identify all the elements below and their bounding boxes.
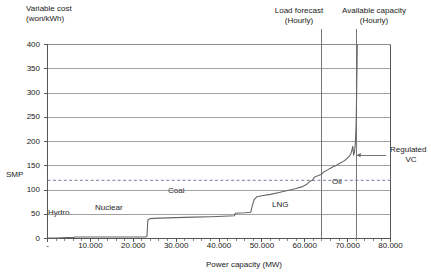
x-tick-label-80000: 80.000 [368,241,414,251]
y-tick-label-100: 100 [12,185,40,195]
x-tick-label-0: - [25,241,71,251]
regulated-vc-leader-arrow [357,153,361,157]
x-tick-label-30000: 30.000 [153,241,199,251]
y-tick-label-350: 350 [12,64,40,74]
x-tick-label-40000: 40.000 [196,241,242,251]
plot-area [0,0,431,279]
x-tick-label-10000: 10.000 [67,241,113,251]
y-tick-label-300: 300 [12,88,40,98]
y-tick-label-150: 150 [12,161,40,171]
x-tick-label-70000: 70.000 [325,241,371,251]
x-tick-label-20000: 20.000 [110,241,156,251]
chart-figure: Variable cost (won/kWh) Power capacity (… [0,0,431,279]
y-tick-label-200: 200 [12,137,40,147]
y-tick-label-250: 250 [12,112,40,122]
x-tick-label-60000: 60.000 [282,241,328,251]
y-tick-label-50: 50 [12,209,40,219]
x-tick-label-50000: 50.000 [239,241,285,251]
y-tick-label-400: 400 [12,40,40,50]
